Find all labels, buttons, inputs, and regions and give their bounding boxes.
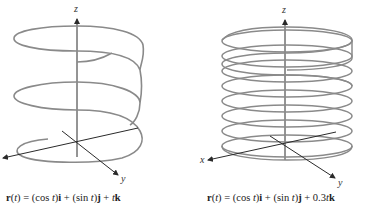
caption-text: + bbox=[101, 192, 112, 203]
left-helix-figure bbox=[3, 19, 143, 175]
right-helix-figure bbox=[208, 20, 352, 178]
right-x-label: x bbox=[200, 155, 204, 165]
caption-text: = (cos bbox=[21, 192, 52, 203]
left-y-label: y bbox=[121, 174, 125, 184]
caption-text: + 0.3 bbox=[302, 192, 326, 203]
left-helix-curve bbox=[14, 26, 144, 162]
caption-text: + (sin bbox=[61, 192, 91, 203]
left-x-axis bbox=[3, 128, 138, 158]
right-z-label: z bbox=[282, 5, 286, 15]
right-helix-curve bbox=[222, 27, 352, 160]
helix-figures bbox=[0, 0, 387, 216]
caption-text: + (sin bbox=[262, 192, 292, 203]
caption-unit-k: k bbox=[329, 192, 335, 203]
right-caption: r(t) = (cos t)i + (sin t)j + 0.3tk bbox=[207, 193, 335, 204]
caption-unit-k: k bbox=[115, 192, 121, 203]
right-y-label: y bbox=[338, 178, 342, 188]
left-caption: r(t) = (cos t)i + (sin t)j + tk bbox=[6, 193, 121, 204]
left-z-label: z bbox=[74, 4, 78, 14]
left-y-axis bbox=[62, 131, 118, 175]
caption-text: = (cos bbox=[222, 192, 253, 203]
